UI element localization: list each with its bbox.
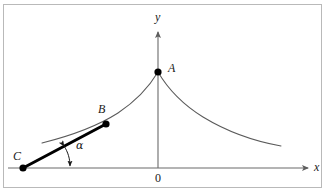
y-axis-label: y xyxy=(155,11,160,23)
origin-label: 0 xyxy=(155,172,161,184)
point-b-label: B xyxy=(98,103,105,115)
figure-root: y x 0 A B C α xyxy=(0,0,328,192)
x-axis-label: x xyxy=(314,161,319,173)
angle-alpha-label: α xyxy=(76,140,83,151)
curve-right-branch xyxy=(158,72,281,146)
point-b-dot xyxy=(102,120,109,127)
point-a-label: A xyxy=(168,62,175,74)
angle-alpha-arc xyxy=(64,146,70,166)
figure-graphic xyxy=(0,0,328,192)
point-c-dot xyxy=(19,164,26,171)
point-c-label: C xyxy=(13,150,21,162)
point-a-dot xyxy=(154,68,161,75)
